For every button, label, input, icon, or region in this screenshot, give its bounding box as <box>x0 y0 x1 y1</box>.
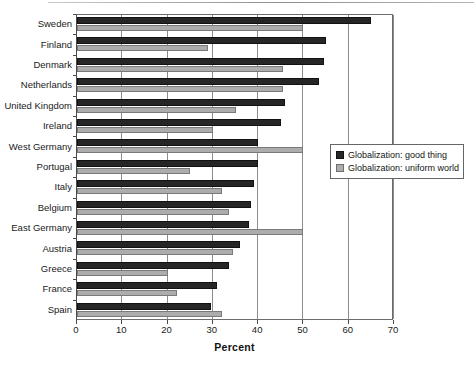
y-axis-label-spain: Spain <box>0 304 72 315</box>
y-axis-label-italy: Italy <box>0 181 72 192</box>
y-axis-label-finland: Finland <box>0 39 72 50</box>
chart-legend: Globalization: good thingGlobalization: … <box>330 144 464 179</box>
bar-group <box>77 178 392 198</box>
y-axis-label-netherlands: Netherlands <box>0 79 72 90</box>
bar-uniform-world <box>77 229 303 235</box>
bar-good-thing <box>77 160 258 167</box>
y-axis-label-france: France <box>0 283 72 294</box>
y-axis-label-denmark: Denmark <box>0 59 72 70</box>
legend-swatch-dark <box>336 151 344 159</box>
bar-uniform-world <box>77 270 168 276</box>
bar-uniform-world <box>77 147 303 153</box>
legend-label: Globalization: good thing <box>348 150 447 160</box>
bar-good-thing <box>77 119 281 126</box>
bar-group <box>77 219 392 239</box>
bar-good-thing <box>77 282 217 289</box>
legend-entry: Globalization: uniform world <box>336 162 458 173</box>
bar-uniform-world <box>77 249 233 255</box>
bar-group <box>77 15 392 35</box>
bar-uniform-world <box>77 107 236 113</box>
bar-uniform-world <box>77 66 283 72</box>
bar-group <box>77 260 392 280</box>
y-axis-label-portugal: Portugal <box>0 161 72 172</box>
bar-uniform-world <box>77 311 222 317</box>
x-axis-tick-label-10: 10 <box>106 324 136 335</box>
bar-good-thing <box>77 241 240 248</box>
bar-uniform-world <box>77 290 177 296</box>
bar-uniform-world <box>77 45 208 51</box>
legend-label: Globalization: uniform world <box>348 163 459 173</box>
x-axis-tick-label-70: 70 <box>378 324 408 335</box>
bar-uniform-world <box>77 127 213 133</box>
bar-good-thing <box>77 58 324 65</box>
x-axis-tick-label-50: 50 <box>287 324 317 335</box>
bar-good-thing <box>77 303 211 310</box>
bar-group <box>77 56 392 76</box>
bar-uniform-world <box>77 188 222 194</box>
y-axis-label-west-germany: West Germany <box>0 141 72 152</box>
bar-good-thing <box>77 262 229 269</box>
y-axis-label-ireland: Ireland <box>0 120 72 131</box>
legend-entry: Globalization: good thing <box>336 149 458 160</box>
x-axis-title: Percent <box>76 341 393 353</box>
bar-good-thing <box>77 17 371 24</box>
y-axis-label-belgium: Belgium <box>0 202 72 213</box>
x-axis-tick-labels: 010203040506070 <box>0 324 474 338</box>
bar-uniform-world <box>77 209 229 215</box>
bar-group <box>77 199 392 219</box>
legend-swatch-light <box>336 164 344 172</box>
bar-group <box>77 301 392 321</box>
y-axis-label-austria: Austria <box>0 243 72 254</box>
bar-uniform-world <box>77 168 190 174</box>
bar-good-thing <box>77 78 319 85</box>
bar-group <box>77 35 392 55</box>
horizontal-bar-chart: SwedenFinlandDenmarkNetherlandsUnited Ki… <box>0 0 474 370</box>
x-axis-tick-label-40: 40 <box>242 324 272 335</box>
x-axis-tick-label-30: 30 <box>197 324 227 335</box>
bar-group <box>77 239 392 259</box>
bar-good-thing <box>77 37 326 44</box>
bar-good-thing <box>77 99 285 106</box>
bar-group <box>77 117 392 137</box>
x-axis-tick-label-20: 20 <box>152 324 182 335</box>
y-axis-label-greece: Greece <box>0 263 72 274</box>
bar-group <box>77 76 392 96</box>
y-axis-label-east-germany: East Germany <box>0 222 72 233</box>
bar-group <box>77 97 392 117</box>
bar-uniform-world <box>77 86 283 92</box>
bar-group <box>77 280 392 300</box>
bar-good-thing <box>77 201 251 208</box>
x-axis-tick-label-60: 60 <box>333 324 363 335</box>
y-axis-labels: SwedenFinlandDenmarkNetherlandsUnited Ki… <box>0 14 72 320</box>
bar-good-thing <box>77 221 249 228</box>
bar-good-thing <box>77 180 254 187</box>
x-axis-tick-label-0: 0 <box>61 324 91 335</box>
bar-good-thing <box>77 139 258 146</box>
bar-uniform-world <box>77 25 303 31</box>
y-axis-label-united-kingdom: United Kingdom <box>0 100 72 111</box>
y-axis-label-sweden: Sweden <box>0 18 72 29</box>
